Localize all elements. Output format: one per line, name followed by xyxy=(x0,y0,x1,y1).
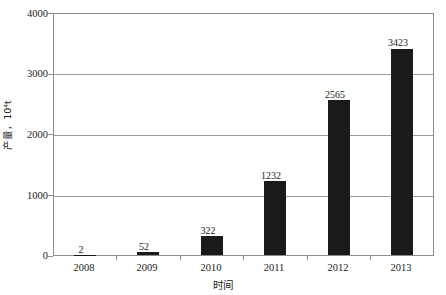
value-label-2013: 3423 xyxy=(371,37,425,48)
bar-2009 xyxy=(137,252,159,255)
y-tick-label: 2000 xyxy=(4,129,48,140)
bar-2011 xyxy=(264,181,286,255)
x-tick-label-2013: 2013 xyxy=(371,262,431,273)
bar-2013 xyxy=(391,49,413,255)
x-tick-mark xyxy=(180,256,181,260)
gridline-3000 xyxy=(54,74,433,75)
x-tick-label-2008: 2008 xyxy=(54,262,114,273)
value-label-2008: 2 xyxy=(54,244,108,255)
bar-chart: 产量，10⁴t 4000 3000 2000 1000 0 2 52 322 1… xyxy=(0,0,446,295)
bar-2010 xyxy=(201,236,223,255)
y-tick-mark xyxy=(48,256,53,257)
x-axis-title: 时间 xyxy=(0,277,446,292)
x-tick-label-2011: 2011 xyxy=(244,262,304,273)
x-tick-mark xyxy=(116,256,117,260)
y-axis-ticks: 4000 3000 2000 1000 0 xyxy=(0,0,48,295)
y-tick-label: 1000 xyxy=(4,190,48,201)
x-tick-label-2010: 2010 xyxy=(181,262,241,273)
value-label-2011: 1232 xyxy=(244,170,298,181)
value-label-2009: 52 xyxy=(117,241,171,252)
bar-2012 xyxy=(328,100,350,255)
x-tick-mark xyxy=(370,256,371,260)
value-label-2010: 322 xyxy=(181,225,235,236)
value-label-2012: 2565 xyxy=(308,89,362,100)
plot-area xyxy=(53,13,434,256)
y-tick-label: 4000 xyxy=(4,8,48,19)
x-tick-label-2009: 2009 xyxy=(117,262,177,273)
y-tick-label: 0 xyxy=(4,250,48,261)
gridline-2000 xyxy=(54,135,433,136)
gridline-1000 xyxy=(54,196,433,197)
y-tick-label: 3000 xyxy=(4,68,48,79)
x-tick-mark xyxy=(307,256,308,260)
x-tick-mark xyxy=(243,256,244,260)
x-tick-label-2012: 2012 xyxy=(308,262,368,273)
